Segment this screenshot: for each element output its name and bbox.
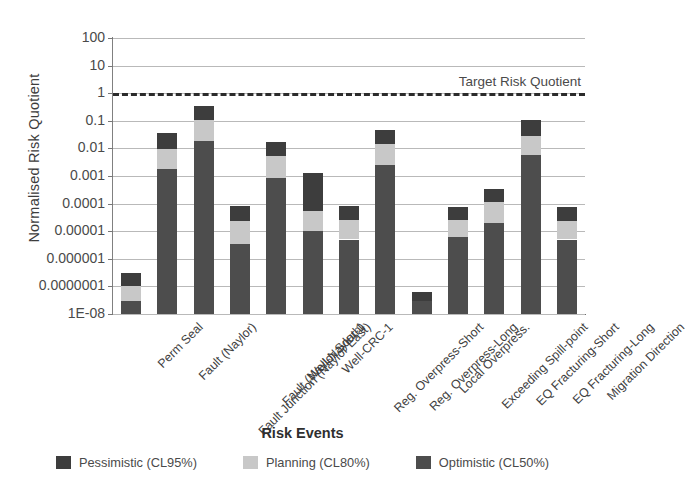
gridline [113, 314, 585, 315]
bar-stack[interactable] [375, 38, 395, 314]
y-axis-tick-label: 0.0001 [62, 195, 105, 211]
bar-stack[interactable] [121, 38, 141, 314]
bar-segment [157, 169, 177, 314]
bar-segment [521, 120, 541, 136]
bar-segment [484, 223, 504, 314]
y-axis-tick-label: 100 [82, 29, 105, 45]
bar-segment [194, 120, 214, 141]
bar-segment [266, 142, 286, 156]
bar-segment [121, 286, 141, 300]
legend-swatch-icon [243, 456, 258, 469]
bar-segment [375, 165, 395, 314]
bar-segment [121, 301, 141, 314]
bar-stack[interactable] [194, 38, 214, 314]
legend-label: Pessimistic (CL95%) [79, 455, 197, 470]
bar-segment [157, 133, 177, 148]
bar-stack[interactable] [412, 38, 432, 314]
bar-segment [339, 240, 359, 314]
bar-segment [194, 141, 214, 314]
legend-swatch-icon [56, 456, 71, 469]
bar-segment [521, 155, 541, 314]
y-axis-tick-label: 1 [97, 84, 105, 100]
legend-item[interactable]: Planning (CL80%) [243, 455, 370, 470]
target-risk-quotient-line [113, 93, 585, 96]
bar-segment [230, 221, 250, 244]
x-axis-title: Risk Events [0, 425, 605, 441]
legend-item[interactable]: Pessimistic (CL95%) [56, 455, 197, 470]
bar-segment [448, 220, 468, 238]
y-axis-tick-label: 0.000001 [47, 250, 105, 266]
bar-segment [557, 221, 577, 239]
bar-segment [266, 156, 286, 178]
bar-segment [557, 207, 577, 222]
bar-segment [230, 206, 250, 221]
bar-segment [230, 244, 250, 314]
bar-segment [375, 144, 395, 165]
y-axis-tick-label: 0.01 [78, 139, 105, 155]
bar-stack[interactable] [339, 38, 359, 314]
bar-segment [339, 220, 359, 239]
y-axis-tick [108, 314, 113, 315]
bar-segment [339, 206, 359, 221]
x-axis-tick-label: Perm Seal [155, 320, 206, 371]
bar-stack[interactable] [230, 38, 250, 314]
bar-segment [521, 136, 541, 154]
plot-area: Target Risk Quotient [113, 38, 585, 314]
y-axis-tick-label: 1E-08 [68, 305, 105, 321]
bar-segment [412, 292, 432, 301]
y-axis-tick-label: 0.001 [70, 167, 105, 183]
y-axis-title: Normalised Risk Quotient [26, 38, 42, 278]
y-axis-tick-label: 10 [89, 57, 105, 73]
bar-stack[interactable] [303, 38, 323, 314]
bar-stack[interactable] [266, 38, 286, 314]
bar-segment [303, 211, 323, 231]
y-axis-tick-label: 0.00001 [54, 222, 105, 238]
bar-segment [557, 240, 577, 314]
bar-segment [484, 189, 504, 203]
bar-segment [375, 130, 395, 144]
bar-stack[interactable] [157, 38, 177, 314]
bar-segment [412, 301, 432, 314]
bar-segment [157, 149, 177, 169]
bar-segment [448, 237, 468, 314]
target-risk-quotient-label: Target Risk Quotient [459, 74, 581, 89]
bar-segment [303, 231, 323, 314]
bar-segment [121, 273, 141, 286]
legend-label: Planning (CL80%) [266, 455, 370, 470]
bar-segment [194, 106, 214, 120]
y-axis-tick-label: 0.0000001 [39, 277, 105, 293]
legend-item[interactable]: Optimistic (CL50%) [416, 455, 549, 470]
chart-legend: Pessimistic (CL95%)Planning (CL80%)Optim… [0, 455, 605, 470]
y-axis-tick-label: 0.1 [86, 112, 105, 128]
legend-swatch-icon [416, 456, 431, 469]
bar-segment [484, 202, 504, 222]
legend-label: Optimistic (CL50%) [439, 455, 549, 470]
bar-segment [448, 207, 468, 220]
bar-segment [303, 173, 323, 210]
bar-segment [266, 178, 286, 314]
